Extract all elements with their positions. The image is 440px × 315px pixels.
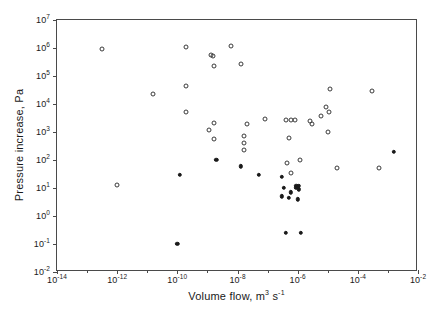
data-point-filled-markers (286, 196, 290, 200)
data-point-open-markers (376, 166, 381, 171)
y-tick-label: 101 (36, 184, 50, 193)
data-point-filled-markers (295, 197, 299, 201)
data-point-filled-markers (214, 158, 218, 162)
data-point-open-markers (244, 121, 249, 126)
x-tick-mark (268, 270, 269, 273)
data-point-open-markers (328, 86, 333, 91)
data-point-open-markers (211, 137, 216, 142)
data-point-filled-markers (178, 172, 182, 176)
data-point-open-markers (241, 141, 246, 146)
data-point-open-markers (241, 134, 246, 139)
data-point-filled-markers (280, 194, 284, 198)
data-point-filled-markers (299, 231, 303, 235)
data-point-open-markers (184, 44, 189, 49)
data-point-filled-markers (297, 187, 301, 191)
y-tick-mark (53, 188, 57, 189)
data-point-open-markers (242, 148, 247, 153)
y-tick-label: 100 (36, 212, 50, 221)
plot-area: 10-210-1100101102103104105106107 10-1410… (56, 19, 417, 271)
x-tick-mark (87, 270, 88, 273)
y-tick-mark (53, 76, 57, 77)
x-tick-label: 10-12 (107, 276, 127, 285)
data-point-open-markers (262, 116, 267, 121)
y-tick-label: 107 (36, 16, 50, 25)
data-point-open-markers (334, 166, 339, 171)
y-tick-label: 106 (36, 44, 50, 53)
data-point-open-markers (212, 120, 217, 125)
y-tick-mark (53, 104, 57, 105)
data-point-open-markers (326, 110, 331, 115)
data-point-open-markers (292, 118, 297, 123)
y-tick-mark (53, 160, 57, 161)
x-tick-label: 10-10 (167, 276, 187, 285)
x-tick-mark (418, 270, 419, 274)
y-tick-mark (53, 132, 57, 133)
data-point-open-markers (228, 43, 233, 48)
data-point-open-markers (100, 47, 105, 52)
x-tick-label: 10-4 (350, 276, 366, 285)
data-point-filled-markers (282, 186, 286, 190)
y-tick-mark (53, 20, 57, 21)
y-tick-label: 105 (36, 72, 50, 81)
x-axis-title-text: Volume flow, m3 s-1 (188, 290, 284, 302)
x-tick-mark (328, 270, 329, 273)
data-point-filled-markers (175, 242, 179, 246)
data-point-filled-markers (392, 149, 396, 153)
x-tick-mark (298, 270, 299, 274)
data-point-open-markers (211, 63, 216, 68)
x-axis-title: Volume flow, m3 s-1 (56, 290, 417, 302)
y-tick-mark (53, 216, 57, 217)
data-point-filled-markers (289, 190, 293, 194)
x-tick-mark (147, 270, 148, 273)
data-point-filled-markers (283, 231, 287, 235)
x-tick-label: 10-2 (410, 276, 426, 285)
data-point-open-markers (184, 110, 189, 115)
data-point-filled-markers (239, 164, 243, 168)
y-axis-title-text: Pressure increase, Pa (13, 89, 25, 201)
data-point-open-markers (319, 114, 324, 119)
data-point-open-markers (370, 88, 375, 93)
y-tick-label: 104 (36, 100, 50, 109)
data-point-filled-markers (256, 172, 260, 176)
data-point-open-markers (115, 182, 120, 187)
data-point-open-markers (324, 104, 329, 109)
data-point-open-markers (298, 158, 303, 163)
data-point-open-markers (206, 127, 211, 132)
x-tick-mark (358, 270, 359, 274)
x-tick-mark (388, 270, 389, 273)
data-point-open-markers (151, 92, 156, 97)
y-tick-label: 103 (36, 128, 50, 137)
data-point-open-markers (184, 83, 189, 88)
y-tick-label: 102 (36, 156, 50, 165)
data-point-open-markers (288, 170, 293, 175)
x-tick-mark (238, 270, 239, 274)
data-point-filled-markers (280, 175, 284, 179)
x-tick-label: 10-6 (290, 276, 306, 285)
scatter-chart-figure: Pressure increase, Pa 10-210-11001011021… (0, 0, 440, 315)
x-tick-mark (207, 270, 208, 273)
data-point-open-markers (310, 121, 315, 126)
x-tick-label: 10-14 (47, 276, 67, 285)
y-tick-mark (53, 244, 57, 245)
data-point-open-markers (210, 54, 215, 59)
x-tick-label: 10-8 (229, 276, 245, 285)
data-point-open-markers (283, 118, 288, 123)
data-point-open-markers (325, 130, 330, 135)
data-point-open-markers (285, 160, 290, 165)
y-tick-mark (53, 48, 57, 49)
data-point-open-markers (286, 136, 291, 141)
data-point-open-markers (238, 62, 243, 67)
y-tick-label: 10-1 (34, 240, 50, 249)
